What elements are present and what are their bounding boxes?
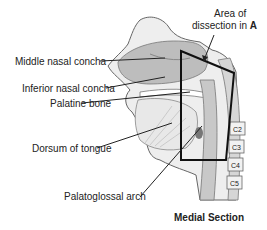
callout-line-2: dissection in A <box>192 20 257 31</box>
label-inferior-nasal-concha: Inferior nasal concha <box>22 83 115 94</box>
label-middle-nasal-concha: Middle nasal concha <box>15 56 106 67</box>
figure-caption: Medial Section <box>174 212 244 223</box>
vertebra-c3: C3 <box>232 142 241 153</box>
label-palatoglossal-arch: Palatoglossal arch <box>64 191 146 202</box>
vertebra-c4: C4 <box>231 160 240 171</box>
callout-line-2-text: dissection in <box>192 20 250 31</box>
medial-section-diagram: Area of dissection in A Middle nasal con… <box>0 0 267 230</box>
label-dorsum-of-tongue: Dorsum of tongue <box>32 143 112 154</box>
callout-bold-letter: A <box>250 20 257 31</box>
vertebra-c2: C2 <box>233 124 242 135</box>
callout-line-1: Area of <box>214 8 246 19</box>
vertebra-c5: C5 <box>230 178 239 189</box>
label-palatine-bone: Palatine bone <box>50 98 111 109</box>
